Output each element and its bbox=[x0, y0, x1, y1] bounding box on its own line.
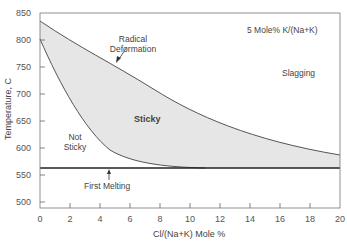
y-tick-label: 500 bbox=[7, 198, 31, 207]
x-tick-label: 18 bbox=[300, 215, 320, 224]
y-tick-label: 750 bbox=[7, 63, 31, 72]
chart-canvas bbox=[0, 0, 347, 242]
x-tick-label: 20 bbox=[330, 215, 347, 224]
y-tick-label: 850 bbox=[7, 9, 31, 18]
x-tick-label: 0 bbox=[30, 215, 50, 224]
x-tick-label: 14 bbox=[240, 215, 260, 224]
x-tick-label: 4 bbox=[90, 215, 110, 224]
x-axis-label: Cl/(Na+K) Mole % bbox=[153, 230, 225, 239]
not-sticky-label-line1: Not bbox=[60, 133, 90, 142]
y-tick-label: 800 bbox=[7, 36, 31, 45]
x-tick-label: 10 bbox=[180, 215, 200, 224]
x-tick-label: 12 bbox=[210, 215, 230, 224]
first-melting-label: First Melting bbox=[84, 182, 130, 191]
not-sticky-label-line2: Sticky bbox=[57, 143, 93, 152]
condition-label: 5 Mole% K/(Na+K) bbox=[247, 26, 318, 35]
y-tick-label: 600 bbox=[7, 144, 31, 153]
sticky-label: Sticky bbox=[134, 115, 161, 124]
first-melting-arrow bbox=[107, 169, 111, 180]
slagging-label: Slagging bbox=[282, 69, 315, 78]
x-tick-label: 2 bbox=[60, 215, 80, 224]
radical-deformation-label-line1: Radical bbox=[108, 35, 158, 44]
x-axis-ticks bbox=[70, 203, 310, 208]
y-axis-label: Temperature, C bbox=[3, 74, 13, 144]
radical-deformation-label-line2: Deformation bbox=[100, 45, 166, 54]
y-axis-ticks bbox=[40, 40, 45, 202]
y-tick-label: 550 bbox=[7, 171, 31, 180]
x-tick-label: 6 bbox=[120, 215, 140, 224]
x-tick-label: 16 bbox=[270, 215, 290, 224]
x-tick-label: 8 bbox=[150, 215, 170, 224]
